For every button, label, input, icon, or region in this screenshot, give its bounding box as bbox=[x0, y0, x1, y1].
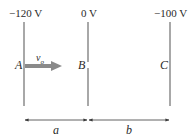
plate-a-potential: −120 V bbox=[9, 8, 42, 19]
plate-a-label: A bbox=[15, 59, 22, 71]
plate-b-label: B bbox=[78, 59, 85, 71]
dimension-a-label: a bbox=[53, 124, 59, 136]
dimension-b-label: b bbox=[126, 124, 132, 136]
plate-c-potential: −100 V bbox=[154, 8, 187, 19]
velocity-subscript: o bbox=[40, 58, 44, 66]
velocity-label: vo bbox=[36, 53, 44, 66]
plate-b-potential: 0 V bbox=[81, 8, 97, 19]
plate-c-label: C bbox=[160, 59, 168, 71]
